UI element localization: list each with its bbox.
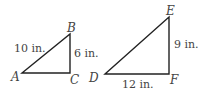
vertex-label-d: D	[88, 71, 99, 85]
triangles-figure: A B C 10 in. 6 in. D E F 9 in. 12 in.	[0, 0, 202, 91]
triangle-def	[105, 17, 169, 74]
vertex-label-f: F	[169, 73, 179, 87]
side-label-bc: 6 in.	[74, 47, 99, 60]
vertex-label-b: B	[66, 21, 76, 35]
side-label-ef: 9 in.	[174, 38, 199, 51]
side-label-df: 12 in.	[122, 78, 154, 91]
vertex-label-a: A	[10, 70, 20, 84]
side-label-ab: 10 in.	[14, 42, 46, 55]
vertex-label-e: E	[165, 4, 175, 18]
vertex-label-c: C	[70, 73, 79, 87]
diagram-canvas: A B C 10 in. 6 in. D E F 9 in. 12 in.	[0, 0, 202, 91]
